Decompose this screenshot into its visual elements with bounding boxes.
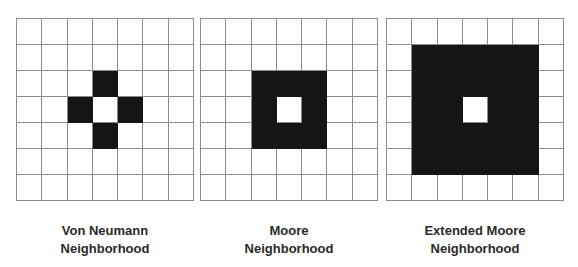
- grid-cell: [412, 175, 437, 201]
- grid-cell: [277, 19, 302, 45]
- grid-cell: [387, 97, 412, 123]
- grid-cell: [118, 71, 143, 97]
- grid-cell: [327, 45, 352, 71]
- grid-cell: [463, 19, 488, 45]
- grid-cell: [513, 175, 538, 201]
- neighbor-cell: [412, 45, 437, 71]
- grid-cell: [17, 45, 42, 71]
- grid-cell: [353, 97, 378, 123]
- grid-cell: [68, 19, 93, 45]
- grid-cell: [68, 175, 93, 201]
- grid-cell: [201, 45, 226, 71]
- grid-cell: [412, 19, 437, 45]
- grid-cell: [327, 175, 352, 201]
- grid-cell: [17, 123, 42, 149]
- grid-cell: [387, 71, 412, 97]
- grid-cell: [143, 123, 168, 149]
- grid-cell: [68, 45, 93, 71]
- neighbor-cell: [438, 71, 463, 97]
- grid-cell: [327, 71, 352, 97]
- neighbor-cell: [412, 149, 437, 175]
- grid-cell: [226, 19, 251, 45]
- grid-cell: [42, 71, 67, 97]
- grid-cell: [488, 175, 513, 201]
- extended-moore-label-line1: Extended Moore: [386, 222, 564, 240]
- neighbor-cell: [513, 71, 538, 97]
- grid-cell: [387, 123, 412, 149]
- grid-cell: [387, 19, 412, 45]
- neighbor-cell: [438, 149, 463, 175]
- extended-moore-label-line2: Neighborhood: [386, 240, 564, 258]
- neighbor-cell: [438, 97, 463, 123]
- neighbor-cell: [412, 71, 437, 97]
- grid-cell: [17, 19, 42, 45]
- neighbor-cell: [302, 71, 327, 97]
- grid-cell: [118, 123, 143, 149]
- grid-cell: [353, 123, 378, 149]
- grid-cell: [327, 123, 352, 149]
- grid-cell: [488, 19, 513, 45]
- grid-cell: [93, 45, 118, 71]
- grid-cell: [169, 45, 194, 71]
- neighbor-cell: [488, 97, 513, 123]
- moore-grid: [200, 18, 378, 201]
- grid-cell: [252, 175, 277, 201]
- grid-cell: [353, 149, 378, 175]
- moore-label: Moore Neighborhood: [200, 222, 378, 258]
- neighbor-cell: [118, 97, 143, 123]
- neighbor-cell: [463, 123, 488, 149]
- neighbor-cell: [302, 123, 327, 149]
- grid-cell: [68, 71, 93, 97]
- grid-cell: [201, 123, 226, 149]
- grid-cell: [539, 175, 564, 201]
- center-cell: [93, 97, 118, 123]
- neighbor-cell: [412, 123, 437, 149]
- von-neumann-label-line2: Neighborhood: [16, 240, 194, 258]
- grid-cell: [327, 19, 352, 45]
- grid-cell: [539, 45, 564, 71]
- grid-cell: [327, 149, 352, 175]
- moore-label-line1: Moore: [200, 222, 378, 240]
- neighbor-cell: [277, 123, 302, 149]
- grid-cell: [169, 97, 194, 123]
- grid-cell: [302, 19, 327, 45]
- grid-cell: [353, 71, 378, 97]
- grid-cell: [93, 19, 118, 45]
- grid-cell: [17, 149, 42, 175]
- grid-cell: [226, 149, 251, 175]
- grid-cell: [353, 45, 378, 71]
- neighbor-cell: [513, 149, 538, 175]
- grid-cell: [226, 175, 251, 201]
- grid-cell: [169, 123, 194, 149]
- neighbor-cell: [302, 97, 327, 123]
- grid-cell: [42, 123, 67, 149]
- grid-cell: [169, 175, 194, 201]
- grid-cell: [302, 149, 327, 175]
- grid-cell: [438, 19, 463, 45]
- grid-cell: [277, 149, 302, 175]
- neighbor-cell: [463, 45, 488, 71]
- grid-cell: [353, 175, 378, 201]
- grid-cell: [539, 71, 564, 97]
- grid-cell: [252, 149, 277, 175]
- neighbor-cell: [463, 71, 488, 97]
- grid-cell: [539, 149, 564, 175]
- neighbor-cell: [93, 71, 118, 97]
- grid-cell: [143, 19, 168, 45]
- grid-cell: [68, 123, 93, 149]
- grid-cell: [513, 19, 538, 45]
- grid-cell: [252, 45, 277, 71]
- neighbor-cell: [252, 123, 277, 149]
- moore-panel: Moore Neighborhood: [200, 18, 378, 201]
- grid-cell: [539, 123, 564, 149]
- extended-moore-panel: Extended Moore Neighborhood: [386, 18, 564, 201]
- grid-cell: [143, 149, 168, 175]
- grid-cell: [387, 149, 412, 175]
- neighbor-cell: [93, 123, 118, 149]
- grid-cell: [226, 71, 251, 97]
- grid-cell: [539, 97, 564, 123]
- grid-cell: [118, 45, 143, 71]
- neighbor-cell: [513, 45, 538, 71]
- grid-cell: [143, 71, 168, 97]
- von-neumann-panel: Von Neumann Neighborhood: [16, 18, 194, 201]
